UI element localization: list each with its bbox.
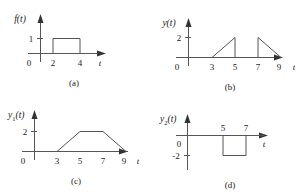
- x-axis-label-a: t: [99, 58, 102, 68]
- x-axis-label-b: t: [293, 62, 296, 72]
- panel-b: y(t) 2 0 3 5 7 9 t (b): [152, 0, 303, 98]
- origin-label-d: 0: [177, 139, 182, 149]
- x-tick-label-b-4: 9: [277, 62, 282, 72]
- waveform-a: [28, 39, 98, 54]
- x-tick-label-d-1: 5: [221, 123, 226, 133]
- waveform-d: [176, 136, 264, 156]
- y-axis-label-d: y2(t): [159, 114, 176, 126]
- panel-caption-a: (a): [69, 78, 79, 88]
- y-axis-label-a: f(t): [14, 14, 26, 25]
- panel-caption-c: (c): [71, 176, 81, 186]
- x-tick-label-a-2: 4: [78, 58, 83, 68]
- origin-label-c: 0: [21, 156, 26, 166]
- y-axis-b: [186, 18, 192, 66]
- x-tick-label-c-1: 3: [55, 156, 60, 166]
- y-axis-c: [32, 110, 38, 160]
- svg-text:y2(t): y2(t): [159, 114, 176, 126]
- x-tick-label-d-2: 7: [244, 123, 249, 133]
- x-tick-label-c-3: 7: [101, 156, 106, 166]
- y-axis-d: [185, 114, 191, 170]
- panel-caption-d: (d): [225, 180, 236, 190]
- x-tick-label-c-4: 9: [122, 156, 127, 166]
- x-tick-label-c-2: 5: [78, 156, 83, 166]
- x-tick-label-a-1: 2: [51, 58, 56, 68]
- x-tick-label-b-3: 7: [256, 62, 261, 72]
- origin-label-b: 0: [175, 62, 180, 72]
- panel-a: f(t) 1 0 2 4 t (a): [0, 0, 152, 98]
- x-axis-label-d: t: [263, 139, 266, 149]
- x-tick-label-b-1: 3: [210, 62, 215, 72]
- panel-d: y2(t) 0 -2 5 7 t (d): [152, 98, 303, 196]
- y-axis-label-d-rest: (t): [167, 114, 176, 125]
- x-axis-label-c: t: [137, 156, 140, 166]
- panel-caption-b: (b): [225, 82, 236, 92]
- origin-label-a: 0: [27, 58, 32, 68]
- y-tick-label-d: -2: [172, 151, 180, 161]
- y-axis-label-b: y(t): [161, 18, 175, 29]
- y-tick-label-b: 2: [177, 33, 182, 43]
- x-tick-label-b-2: 5: [233, 62, 238, 72]
- y-tick-label-c: 2: [23, 127, 28, 137]
- svg-text:y1(t): y1(t): [7, 110, 24, 122]
- y-axis-label-c: y1(t): [7, 110, 24, 122]
- y-tick-label-a: 1: [29, 34, 34, 44]
- panel-c: y1(t) 2 0 3 5 7 9 t (c): [0, 98, 152, 196]
- y-axis-label-c-rest: (t): [15, 110, 24, 121]
- figure-panel-grid: f(t) 1 0 2 4 t (a) y(t) 2 0 3 5: [0, 0, 303, 196]
- waveform-c: [22, 132, 128, 152]
- waveform-b: [176, 38, 281, 58]
